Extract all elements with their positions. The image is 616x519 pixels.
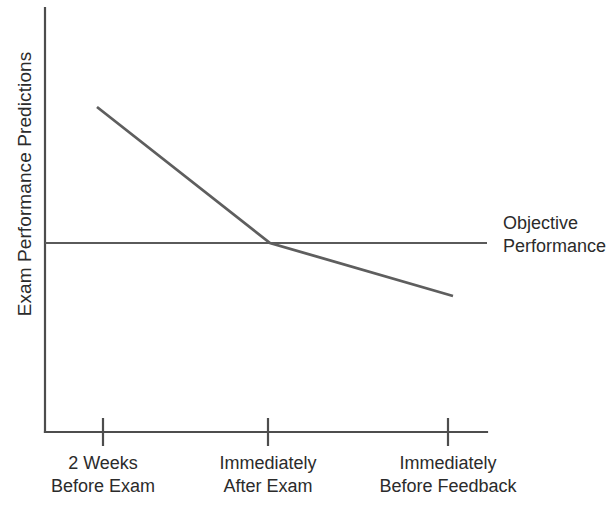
x-tick-label-2-line-2: Before Feedback bbox=[340, 475, 556, 498]
x-tick-label-1-line-1: Immediately bbox=[178, 452, 358, 475]
x-tick-label-immediately-after-exam: Immediately After Exam bbox=[178, 452, 358, 498]
objective-performance-legend-label: Objective Performance bbox=[503, 212, 616, 258]
x-tick-label-2-line-1: Immediately bbox=[340, 452, 556, 475]
chart-plot-area bbox=[0, 0, 616, 519]
x-tick-label-immediately-before-feedback: Immediately Before Feedback bbox=[340, 452, 556, 498]
chart-figure: Exam Performance Predictions Objective P… bbox=[0, 0, 616, 519]
x-tick-label-2-weeks-before-exam: 2 Weeks Before Exam bbox=[13, 452, 193, 498]
prediction-series-line bbox=[97, 107, 453, 296]
x-tick-label-0-line-1: 2 Weeks bbox=[13, 452, 193, 475]
legend-label-line-1: Objective bbox=[503, 213, 578, 233]
x-tick-label-1-line-2: After Exam bbox=[178, 475, 358, 498]
legend-label-line-2: Performance bbox=[503, 235, 616, 258]
x-tick-label-0-line-2: Before Exam bbox=[13, 475, 193, 498]
